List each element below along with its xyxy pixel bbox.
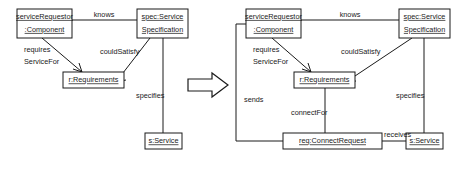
right-edge-label-knows: knows <box>340 10 361 19</box>
right-node-requirements-label: r:Requirements <box>300 75 350 84</box>
left-edge-requires-line <box>42 38 82 72</box>
right-node-spec-line2: Specification <box>404 25 445 34</box>
left-diagram: serviceRequestor :Component spec:Service… <box>16 9 188 149</box>
right-node-service-requestor[interactable]: serviceRequestor :Component <box>245 9 302 38</box>
left-node-requirements-label: r:Requirements <box>69 75 119 84</box>
left-node-service[interactable]: s:Service <box>145 133 182 149</box>
left-edge-label-specifies: specifies <box>136 91 165 100</box>
right-edge-label-requires-line2: ServiceFor <box>253 57 289 66</box>
right-node-requirements[interactable]: r:Requirements <box>294 72 355 88</box>
right-edge-label-connectfor: connectFor <box>291 108 328 117</box>
block-arrow-right-icon <box>188 73 228 97</box>
right-node-service-label: s:Service <box>409 136 439 145</box>
right-edge-couldsatisfy-line <box>346 38 412 82</box>
right-edge-label-specifies: specifies <box>396 91 425 100</box>
left-node-spec[interactable]: spec:Service Specification <box>137 9 188 38</box>
right-node-service[interactable]: s:Service <box>406 133 443 149</box>
right-node-connect-request[interactable]: req:ConnectRequest <box>283 133 382 149</box>
left-node-service-label: s:Service <box>148 136 178 145</box>
right-edge-label-receives: receives <box>384 130 412 139</box>
right-node-service-requestor-line2: :Component <box>254 25 294 34</box>
right-edge-label-requires-line1: requires <box>253 45 280 54</box>
uml-transformation-figure: serviceRequestor :Component spec:Service… <box>0 0 470 170</box>
right-edge-requires-line <box>272 38 311 72</box>
left-node-requirements[interactable]: r:Requirements <box>63 72 124 88</box>
right-edge-label-sends: sends <box>244 95 264 104</box>
left-edge-label-couldsatisfy: couldSatisfy <box>100 47 140 56</box>
left-node-spec-line1: spec:Service <box>142 12 184 21</box>
right-node-connect-request-label: req:ConnectRequest <box>299 136 366 145</box>
right-edge-label-couldsatisfy: couldSatisfy <box>341 47 381 56</box>
left-edge-label-knows: knows <box>94 10 115 19</box>
diagram-canvas: serviceRequestor :Component spec:Service… <box>0 0 470 170</box>
left-node-spec-line2: Specification <box>142 25 183 34</box>
left-node-service-requestor-line1: serviceRequestor <box>16 12 73 21</box>
left-edge-label-requires-line2: ServiceFor <box>24 57 60 66</box>
right-node-service-requestor-line1: serviceRequestor <box>245 12 302 21</box>
left-edge-label-requires-line1: requires <box>24 45 51 54</box>
right-node-spec[interactable]: spec:Service Specification <box>399 9 450 38</box>
left-node-service-requestor[interactable]: serviceRequestor :Component <box>16 9 73 38</box>
right-node-spec-line1: spec:Service <box>404 12 446 21</box>
right-diagram: serviceRequestor :Component spec:Service… <box>236 9 450 149</box>
left-node-service-requestor-line2: :Component <box>25 25 65 34</box>
